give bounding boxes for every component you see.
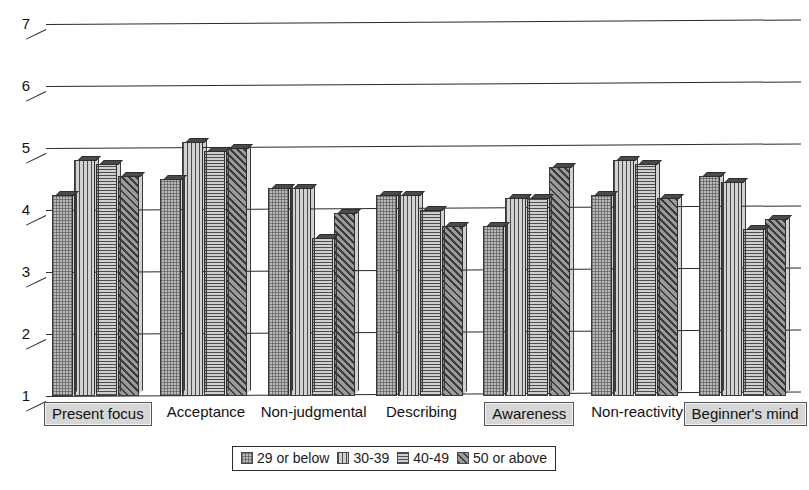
bar-groups xyxy=(46,24,801,396)
bar-1-2 xyxy=(74,160,95,396)
y-axis-tick-labels: 7654321 xyxy=(0,24,30,396)
bar-chart: 7654321 Present focusAcceptanceNon-judgm… xyxy=(0,0,809,490)
legend-item-0: 29 or below xyxy=(241,449,329,467)
bar-group-non-judgmental xyxy=(268,24,356,396)
category-label-beginner-s-mind: Beginner's mind xyxy=(684,402,807,426)
bar-group-non-reactivity xyxy=(591,24,679,396)
bar-7-1 xyxy=(699,176,720,396)
bar-2-1 xyxy=(160,179,181,396)
bar-7-4 xyxy=(765,219,786,396)
y-tick-label-2: 2 xyxy=(22,326,30,341)
legend-label: 50 or above xyxy=(473,449,547,467)
bar-3-1 xyxy=(268,188,289,396)
legend-label: 40-49 xyxy=(413,449,449,467)
category-label-non-reactivity: Non-reactivity xyxy=(591,402,683,422)
y-tick-label-7: 7 xyxy=(22,16,30,31)
legend-item-1: 30-39 xyxy=(337,449,389,467)
bar-group-awareness xyxy=(483,24,571,396)
legend-label: 30-39 xyxy=(353,449,389,467)
category-label-non-judgmental: Non-judgmental xyxy=(261,402,367,422)
bar-1-3 xyxy=(96,164,117,397)
y-tick-label-6: 6 xyxy=(22,78,30,93)
bar-group-acceptance xyxy=(160,24,248,396)
category-label-describing: Describing xyxy=(386,402,457,422)
legend-swatch-vertical-lines-icon xyxy=(337,452,349,464)
category-label-acceptance: Acceptance xyxy=(167,402,245,422)
bar-6-3 xyxy=(635,164,656,397)
bar-7-2 xyxy=(721,182,742,396)
bar-5-3 xyxy=(527,198,548,396)
bar-1-1 xyxy=(52,195,73,397)
bar-5-2 xyxy=(505,198,526,396)
bar-5-4 xyxy=(549,167,570,396)
legend-swatch-horizontal-lines-icon xyxy=(397,452,409,464)
y-tick-label-4: 4 xyxy=(22,202,30,217)
bar-5-1 xyxy=(483,226,504,397)
legend-swatch-checker-light-icon xyxy=(241,452,253,464)
category-label-present-focus: Present focus xyxy=(44,402,152,426)
category-axis-labels: Present focusAcceptanceNon-judgmentalDes… xyxy=(46,402,801,426)
bar-group-beginner-s-mind xyxy=(699,24,787,396)
bar-7-3 xyxy=(743,229,764,396)
legend-swatch-diagonal-dark-icon xyxy=(457,452,469,464)
legend-label: 29 or below xyxy=(257,449,329,467)
bar-6-1 xyxy=(591,195,612,397)
y-tick-label-5: 5 xyxy=(22,140,30,155)
legend: 29 or below30-3940-4950 or above xyxy=(232,446,556,471)
bar-group-describing xyxy=(376,24,464,396)
bar-group-present-focus xyxy=(52,24,140,396)
y-tick-label-3: 3 xyxy=(22,264,30,279)
bar-4-1 xyxy=(376,195,397,397)
y-tick-label-1: 1 xyxy=(22,388,30,403)
legend-item-2: 40-49 xyxy=(397,449,449,467)
category-label-awareness: Awareness xyxy=(484,402,574,426)
legend-item-3: 50 or above xyxy=(457,449,547,467)
bar-6-2 xyxy=(613,160,634,396)
bar-6-4 xyxy=(657,198,678,396)
bar-1-4 xyxy=(118,176,139,396)
